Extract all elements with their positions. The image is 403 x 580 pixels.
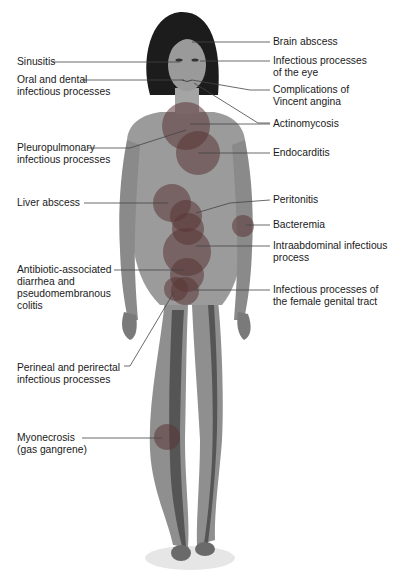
label-endocarditis: Endocarditis <box>273 147 330 159</box>
label-liver-abscess: Liver abscess <box>17 197 80 209</box>
label-myonecrosis: Myonecrosis (gas gangrene) <box>17 432 87 456</box>
label-perineal: Perineal and perirectal infectious proce… <box>17 362 120 386</box>
right-hand <box>237 312 250 340</box>
label-antibiotic-diarrhea: Antibiotic-associated diarrhea and pseud… <box>17 264 111 312</box>
left-foot <box>171 545 191 561</box>
right-eye <box>192 59 199 62</box>
right-leg <box>192 300 223 545</box>
left-hand <box>122 312 137 340</box>
site-perineal <box>164 277 188 301</box>
right-foot <box>195 542 215 556</box>
label-sinusitis: Sinusitis <box>17 56 55 68</box>
label-peritonitis: Peritonitis <box>273 194 318 206</box>
label-oral-dental: Oral and dental infectious processes <box>17 74 110 98</box>
label-vincent-angina: Complications of Vincent angina <box>273 84 349 108</box>
site-myonecrosis <box>154 424 180 450</box>
label-actinomycosis: Actinomycosis <box>273 118 339 130</box>
label-bacteremia: Bacteremia <box>273 219 325 231</box>
label-pleuropulmonary: Pleuropulmonary infectious processes <box>17 142 110 166</box>
label-eye: Infectious processes of the eye <box>273 55 367 79</box>
label-intraabdominal: Intraabdominal infectious process <box>273 240 387 264</box>
label-female-genital: Infectious processes of the female genit… <box>273 284 378 308</box>
site-bacteremia <box>232 215 254 237</box>
face <box>168 39 206 91</box>
left-eye <box>176 59 183 62</box>
label-brain-abscess: Brain abscess <box>273 36 338 48</box>
